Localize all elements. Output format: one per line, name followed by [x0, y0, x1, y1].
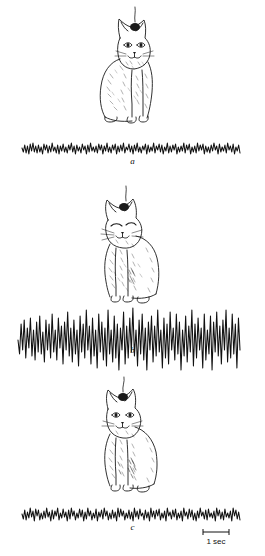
panel-a: a	[0, 0, 265, 180]
panel-b: b	[0, 180, 265, 370]
aroused-cat-illustration	[0, 374, 265, 498]
scale-bar-graphic	[186, 528, 246, 536]
scale-bar-label: 1 sec	[186, 537, 246, 547]
alert-cat-illustration	[0, 4, 265, 132]
drowsy-cat-illustration	[0, 184, 265, 310]
time-scale-bar: 1 sec	[186, 528, 246, 547]
eeg-arousal-figure: a	[0, 0, 265, 556]
panel-label-b: b	[0, 345, 265, 355]
eeg-trace-b	[0, 302, 265, 374]
panel-label-a: a	[0, 156, 265, 166]
